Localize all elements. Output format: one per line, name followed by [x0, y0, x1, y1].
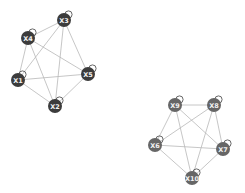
edge-x1-x5	[18, 74, 88, 80]
edge-x9-x10	[175, 105, 192, 178]
node-label: X6	[150, 142, 160, 150]
node-label: X9	[170, 102, 180, 110]
edge-x8-x10	[192, 105, 214, 178]
node-label: X5	[83, 71, 93, 79]
node-x6[interactable]: X6	[148, 136, 163, 152]
edge-x6-x7	[155, 145, 223, 149]
edge-x8-x6	[155, 105, 214, 145]
edge-x3-x2	[55, 20, 64, 106]
node-label: X4	[23, 35, 33, 43]
node-x3[interactable]: X3	[57, 11, 72, 27]
node-x9[interactable]: X9	[168, 96, 183, 112]
node-x7[interactable]: X7	[216, 140, 231, 156]
edge-x4-x5	[28, 38, 88, 74]
node-label: X10	[185, 175, 200, 183]
edge-x4-x2	[28, 38, 55, 106]
node-label: X3	[59, 17, 69, 25]
node-label: X8	[209, 102, 219, 110]
node-x5[interactable]: X5	[81, 65, 96, 81]
node-label: X7	[218, 146, 228, 154]
node-label: X1	[13, 77, 23, 85]
node-x2[interactable]: X2	[48, 97, 63, 113]
node-x8[interactable]: X8	[207, 96, 222, 112]
edge-x6-x10	[155, 145, 192, 178]
node-x10[interactable]: X10	[185, 169, 200, 185]
node-label: X2	[50, 103, 60, 111]
edges-layer	[18, 20, 223, 178]
network-graph: X1X2X3X4X5X6X7X8X9X10	[0, 0, 245, 193]
edge-x3-x5	[64, 20, 88, 74]
node-x4[interactable]: X4	[21, 29, 36, 45]
